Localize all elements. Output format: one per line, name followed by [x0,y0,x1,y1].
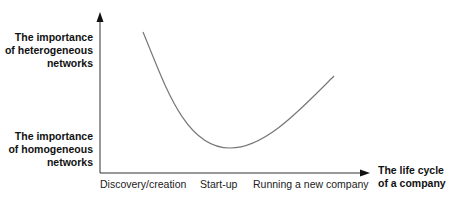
y-axis-arrow-icon [97,12,104,22]
x-axis-title: The life cycle of a company [378,164,446,190]
x-tick-startup: Start-up [200,178,237,190]
x-tick-running: Running a new company [253,178,369,190]
y-label-bottom-line: The importance [8,130,93,143]
y-label-bottom-line: of homogeneous [8,143,93,156]
y-label-top: The importance of heterogeneous networks [5,31,93,70]
x-axis-arrow-icon [360,170,370,177]
x-tick-discovery: Discovery/creation [100,178,186,190]
x-title-line: of a company [378,177,446,190]
y-label-top-line: The importance [5,31,93,44]
y-label-top-line: of heterogeneous [5,44,93,57]
u-curve [143,32,334,148]
y-label-bottom: The importance of homogeneous networks [8,130,93,169]
x-title-line: The life cycle [378,164,446,177]
y-label-top-line: networks [5,57,93,70]
y-label-bottom-line: networks [8,156,93,169]
diagram: The importance of heterogeneous networks… [0,0,449,199]
